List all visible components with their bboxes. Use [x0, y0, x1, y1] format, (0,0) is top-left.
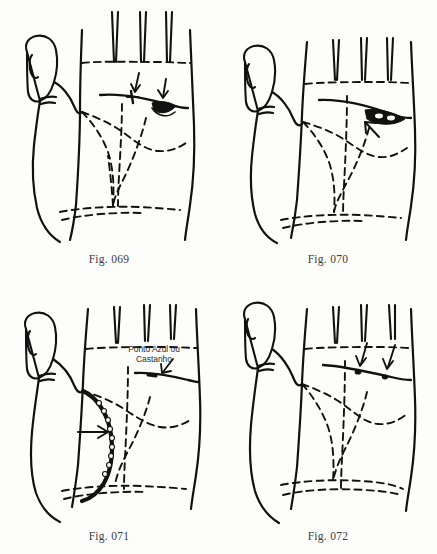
heart-line — [135, 373, 198, 382]
palm-lower-outline — [31, 359, 83, 522]
heart-line — [323, 365, 411, 380]
figure-070-drawing — [219, 0, 437, 250]
figure-070-caption: Fig. 070 — [219, 253, 437, 265]
point-mark — [148, 375, 156, 376]
island-mark — [152, 102, 176, 116]
figure-072-caption: Fig. 072 — [219, 530, 437, 542]
figure-072-drawing — [219, 277, 437, 527]
figure-069: Fig. 069 — [0, 0, 218, 277]
figure-070: Fig. 070 — [219, 0, 437, 277]
figure-071: Ponto Azul ou Castanho Fig. 071 — [0, 277, 218, 554]
figure-071-drawing — [0, 277, 218, 527]
scanned-page: Fig. 069 — [0, 0, 437, 554]
thumb-outline — [25, 313, 56, 379]
arrow-2 — [383, 345, 395, 369]
figure-071-caption: Fig. 071 — [0, 530, 218, 542]
annotation-ponto-azul: Ponto Azul ou Castanho — [108, 345, 200, 364]
arrow-lifeline — [78, 426, 108, 438]
fingers-group — [333, 38, 393, 80]
figure-069-drawing — [0, 0, 218, 250]
cross-mark — [127, 91, 138, 103]
arrow-2 — [158, 79, 168, 98]
thumb-outline — [26, 36, 57, 102]
fingers-group — [114, 305, 176, 343]
fingers-group — [112, 12, 172, 62]
dashed-palm-lines — [62, 347, 197, 499]
figure-069-caption: Fig. 069 — [0, 253, 218, 265]
fingers-group — [333, 305, 395, 343]
figure-072: Fig. 072 — [219, 277, 437, 554]
thumb-outline — [244, 46, 275, 112]
life-line-chained — [82, 391, 115, 501]
thumb-outline — [244, 303, 275, 369]
arrow-1 — [131, 73, 140, 92]
palm-lower-outline — [250, 349, 302, 523]
hand-outline — [72, 309, 200, 509]
hand-outline — [291, 42, 415, 240]
